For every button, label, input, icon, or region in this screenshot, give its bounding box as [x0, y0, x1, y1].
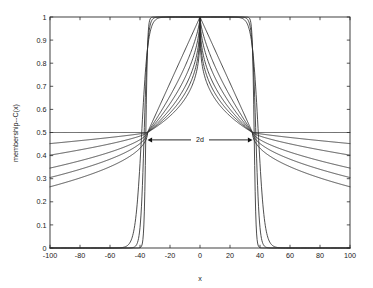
y-tick-label: 0.1 [37, 221, 47, 230]
figure-canvas: 2d -100-80-60-40-20020406080100 00.10.20… [0, 0, 373, 288]
x-tick-label: -40 [135, 251, 145, 260]
y-tick-label: 0.7 [37, 82, 47, 91]
y-tick-label: 0 [43, 244, 47, 253]
x-tick-label: 80 [316, 251, 324, 260]
y-tick-label: 0.3 [37, 174, 47, 183]
x-tick-label: 60 [286, 251, 294, 260]
x-tick-label: 40 [256, 251, 264, 260]
x-axis-title: x [198, 274, 202, 283]
y-tick-label: 0.8 [37, 59, 47, 68]
y-tick-label: 0.6 [37, 105, 47, 114]
y-tick-label: 1 [43, 13, 47, 22]
x-tick-label: -80 [75, 251, 85, 260]
x-tick-label: 0 [198, 251, 202, 260]
y-tick-label: 0.9 [37, 36, 47, 45]
x-tick-label: -20 [165, 251, 175, 260]
x-tick-label: 100 [344, 251, 356, 260]
x-tick-label: 20 [226, 251, 234, 260]
figure-background [0, 0, 373, 288]
y-tick-label: 0.2 [37, 197, 47, 206]
annotation-2d-label: 2d [196, 136, 204, 143]
chart-plot: 2d -100-80-60-40-20020406080100 00.10.20… [0, 0, 373, 288]
y-tick-label: 0.5 [37, 128, 47, 137]
x-tick-label: -60 [105, 251, 115, 260]
y-axis-title: membership--C(x) [11, 104, 20, 162]
y-tick-label: 0.4 [37, 151, 47, 160]
